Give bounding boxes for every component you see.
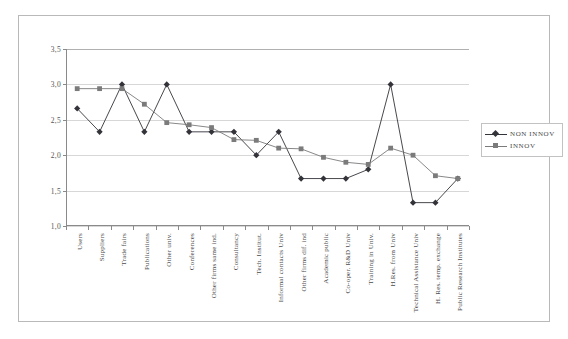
x-axis-tick-mark (178, 226, 179, 230)
data-point-marker[interactable] (141, 129, 147, 135)
data-point-marker[interactable] (388, 146, 393, 151)
x-axis-tick-mark (156, 226, 157, 230)
data-point-marker[interactable] (187, 122, 192, 127)
x-axis-tick-mark (290, 226, 291, 230)
legend-item-innov[interactable]: INNOV (485, 140, 558, 152)
data-point-marker[interactable] (164, 81, 170, 87)
data-point-marker[interactable] (343, 175, 349, 181)
data-point-marker[interactable] (299, 146, 304, 151)
x-axis-tick-mark (111, 226, 112, 230)
y-axis-tick-label: 2,0 (51, 151, 61, 160)
data-point-marker[interactable] (321, 155, 326, 160)
data-point-marker[interactable] (365, 166, 371, 172)
x-axis-tick-mark (335, 226, 336, 230)
data-point-marker[interactable] (320, 175, 326, 181)
x-axis-tick-mark (312, 226, 313, 230)
legend-label-non-innov: NON INNOV (510, 130, 555, 138)
x-axis-tick-mark (133, 226, 134, 230)
x-axis-tick-mark (402, 226, 403, 230)
y-axis-tick-label: 3,5 (51, 45, 61, 54)
series-line-innov (77, 89, 458, 179)
chart-legend: NON INNOV INNOV (481, 123, 563, 157)
x-axis-tick-mark (379, 226, 380, 230)
x-axis-tick-mark (223, 226, 224, 230)
legend-marker-diamond-icon (485, 130, 507, 139)
x-axis-tick-mark (447, 226, 448, 230)
data-point-marker[interactable] (455, 176, 460, 181)
x-axis-tick-mark (424, 226, 425, 230)
data-point-marker[interactable] (97, 86, 102, 91)
data-point-marker[interactable] (254, 138, 259, 143)
x-axis-tick-mark (245, 226, 246, 230)
y-axis-tick-label: 1,5 (51, 186, 61, 195)
x-axis-tick-mark (469, 226, 470, 230)
data-point-marker[interactable] (298, 175, 304, 181)
data-point-marker[interactable] (164, 120, 169, 125)
data-point-marker[interactable] (366, 162, 371, 167)
legend-marker-square-icon (485, 142, 507, 151)
y-axis-tick-label: 1,0 (51, 222, 61, 231)
data-point-marker[interactable] (388, 81, 394, 87)
plot-area: 3,53,02,52,01,51,0 UsersSuppliersTrade f… (66, 49, 469, 226)
y-axis-tick-label: 3,0 (51, 80, 61, 89)
data-point-marker[interactable] (209, 125, 214, 130)
data-point-marker[interactable] (186, 129, 192, 135)
data-point-marker[interactable] (433, 173, 438, 178)
data-point-marker[interactable] (410, 200, 416, 206)
data-point-marker[interactable] (276, 146, 281, 151)
data-point-marker[interactable] (142, 102, 147, 107)
data-point-marker[interactable] (343, 160, 348, 165)
legend-label-innov: INNOV (510, 142, 536, 150)
series-layer (66, 49, 469, 226)
x-axis-tick-mark (357, 226, 358, 230)
data-point-marker[interactable] (232, 137, 237, 142)
data-point-marker[interactable] (75, 86, 80, 91)
data-point-marker[interactable] (411, 153, 416, 158)
series-line-non-innov (77, 84, 458, 202)
x-axis-tick-mark (88, 226, 89, 230)
x-axis-tick-mark (200, 226, 201, 230)
x-axis-tick-mark (66, 226, 67, 230)
y-axis-tick-label: 2,5 (51, 115, 61, 124)
legend-item-non-innov[interactable]: NON INNOV (485, 128, 558, 140)
x-axis-tick-mark (268, 226, 269, 230)
data-point-marker[interactable] (120, 86, 125, 91)
chart-frame: 3,53,02,52,01,51,0 UsersSuppliersTrade f… (18, 15, 550, 322)
